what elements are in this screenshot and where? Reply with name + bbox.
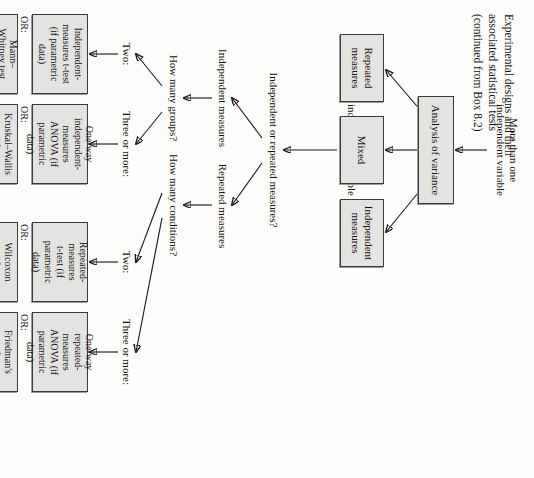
test-box-repeated-two-parametric[interactable]: Repeated- measures t-test (if parametric…: [32, 222, 88, 302]
test-box-repeated-many-nonparametric-label: Friedman's test (if non- parametric data…: [0, 329, 14, 376]
node-repeated-measures-label: Repeated measures: [349, 48, 375, 89]
node-independent-measures[interactable]: Independent measures: [340, 199, 384, 267]
test-box-independent-two-parametric-label: Independent- measures t-test (if paramet…: [36, 24, 83, 84]
node-analysis-of-variance-label: Analysis of variance: [430, 105, 443, 195]
test-box-independent-two-nonparametric[interactable]: Mann– Whitney test (if non- parametric d…: [0, 14, 18, 94]
test-box-repeated-many-parametric[interactable]: One-way repeated- measures ANOVA (if par…: [32, 312, 88, 392]
flowchart-plane: Experimental designs and their associate…: [0, 0, 534, 478]
or-label-repeated-two: OR:: [18, 224, 30, 241]
node-repeated-measures[interactable]: Repeated measures: [340, 34, 384, 102]
path-label-repeated-measures: Repeated measures: [216, 145, 229, 267]
test-box-repeated-two-nonparametric[interactable]: Wilcoxon test (if non- parametric data): [0, 222, 18, 302]
test-box-independent-many-parametric-label: One-way independent- measures ANOVA (if …: [25, 118, 96, 170]
test-box-independent-two-nonparametric-label: Mann– Whitney test (if non- parametric d…: [0, 29, 19, 80]
node-analysis-of-variance[interactable]: Analysis of variance: [418, 96, 454, 204]
path-label-three-or-more-groups: Three or more:: [120, 100, 133, 188]
or-label-independent-two: OR:: [18, 16, 30, 33]
test-box-repeated-many-parametric-label: One-way repeated- measures ANOVA (if par…: [25, 329, 96, 375]
test-box-repeated-two-parametric-label: Repeated- measures t-test (if parametric…: [31, 241, 90, 284]
branch-label-more-than-one: More than one independent variable: [493, 82, 520, 218]
test-box-repeated-many-nonparametric[interactable]: Friedman's test (if non- parametric data…: [0, 312, 18, 392]
test-box-independent-two-parametric[interactable]: Independent- measures t-test (if paramet…: [32, 14, 88, 94]
node-mixed-label: Mixed: [356, 136, 369, 165]
test-box-independent-many-nonparametric-label: Kruskal–Wallis test (if non- parametric …: [0, 113, 14, 175]
question-how-many-conditions: How many conditions?: [167, 140, 180, 270]
path-label-two-groups: Two:: [120, 24, 133, 84]
or-label-repeated-many: OR:: [18, 314, 30, 331]
question-design-type: Independent or repeated measures?: [267, 50, 280, 250]
path-label-two-conditions: Two:: [120, 232, 133, 292]
figure-canvas: Experimental designs and their associate…: [0, 0, 534, 478]
node-independent-measures-label: Independent measures: [349, 206, 375, 260]
node-mixed[interactable]: Mixed: [340, 116, 384, 184]
test-box-independent-many-nonparametric[interactable]: Kruskal–Wallis test (if non- parametric …: [0, 104, 18, 184]
test-box-repeated-two-nonparametric-label: Wilcoxon test (if non- parametric data): [0, 239, 14, 286]
test-box-independent-many-parametric[interactable]: One-way independent- measures ANOVA (if …: [32, 104, 88, 184]
or-label-independent-many: OR:: [18, 106, 30, 123]
path-label-three-or-more-conditions: Three or more:: [120, 308, 133, 396]
